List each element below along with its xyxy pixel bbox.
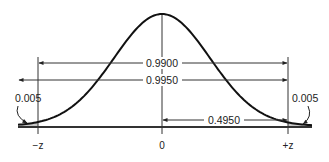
axis-label-pos-z: +z xyxy=(283,140,294,151)
diagram-canvas: 0.9900 0.9950 0.4950 0.005 0.005 −z 0 +z xyxy=(0,0,329,162)
half-area-label: 0.4950 xyxy=(208,114,240,126)
area-0990-label: 0.9900 xyxy=(146,57,178,69)
right-tail-pointer xyxy=(303,106,310,124)
left-tail-pointer xyxy=(17,106,27,123)
normal-curve-diagram: 0.9900 0.9950 0.4950 0.005 0.005 −z 0 +z xyxy=(0,0,329,162)
area-0995-label: 0.9950 xyxy=(146,74,178,86)
axis-label-zero: 0 xyxy=(159,140,165,151)
left-tail-label: 0.005 xyxy=(15,92,41,104)
axis-label-neg-z: −z xyxy=(33,140,44,151)
bell-curve xyxy=(18,14,312,125)
right-tail-label: 0.005 xyxy=(292,92,318,104)
